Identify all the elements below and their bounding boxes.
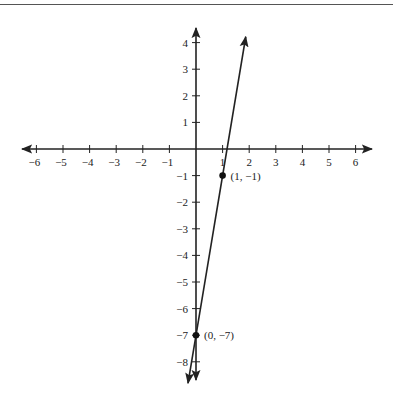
x-tick-label: −5 (55, 156, 67, 168)
labeled-points: (1, −1)(0, −7) (193, 170, 261, 343)
ticks: −6−5−4−3−2−11234564321−1−2−3−4−5−6−7−8 (29, 37, 359, 368)
y-tick-label: 3 (183, 63, 189, 75)
x-tick-label: 5 (326, 156, 332, 168)
x-tick-label: −2 (135, 156, 147, 168)
y-tick-label: −3 (176, 223, 188, 235)
y-tick-label: −5 (176, 276, 188, 288)
y-tick-label: −4 (176, 249, 188, 261)
y-tick-label: 4 (183, 37, 189, 49)
point-label: (0, −7) (204, 329, 234, 342)
point-label: (1, −1) (231, 170, 261, 183)
y-tick-label: 1 (183, 116, 189, 128)
y-tick-label: −1 (176, 170, 188, 182)
x-tick-label: −3 (108, 156, 120, 168)
x-tick-label: 4 (300, 156, 306, 168)
y-tick-label: 2 (183, 90, 189, 102)
x-tick-label: −6 (29, 156, 41, 168)
y-tick-label: −6 (176, 303, 188, 315)
point-marker (193, 332, 200, 339)
x-tick-label: −1 (162, 156, 174, 168)
coordinate-plane: −6−5−4−3−2−11234564321−1−2−3−4−5−6−7−8 (… (0, 0, 393, 399)
y-tick-label: −2 (176, 196, 188, 208)
y-tick-label: −7 (176, 329, 188, 341)
x-tick-label: 6 (353, 156, 359, 168)
x-tick-label: 3 (273, 156, 279, 168)
y-tick-label: −8 (176, 356, 188, 368)
x-tick-label: 2 (246, 156, 252, 168)
x-tick-label: −4 (82, 156, 94, 168)
point-marker (219, 172, 226, 179)
